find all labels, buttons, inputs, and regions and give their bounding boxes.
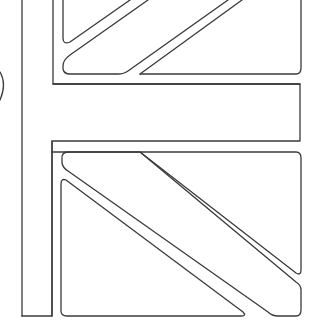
flag-line-art [0,0,314,334]
center-vertical-band [22,141,52,316]
left-edge-arc [0,72,4,100]
upper-panel-outline [53,0,300,84]
upper-right-panel [140,0,301,74]
lower-diagonal-stripe [62,152,301,316]
upper-right-triangle [140,0,242,74]
upper-diagonal-stripe [63,0,228,74]
flag-outline-drawing [0,0,314,334]
lower-left-triangle [61,180,245,317]
center-horizontal-band [53,84,300,141]
